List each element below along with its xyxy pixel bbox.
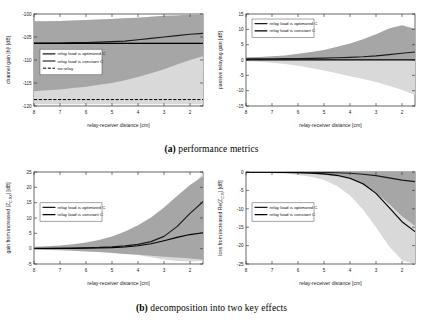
x-tick-label: 6 xyxy=(85,268,88,273)
y-tick-label: 10 xyxy=(238,27,244,32)
x-tick-label: 3 xyxy=(163,268,166,273)
y-tick-label: 20 xyxy=(26,185,32,190)
legend-label: relay load is optimized C xyxy=(270,205,318,210)
plot-passive-relaying-gain: 8765432151050-5-10-15relay-receiver dist… xyxy=(212,0,423,140)
y-tick-label: -20 xyxy=(237,243,244,248)
legend: relay load is optimized Crelay load is c… xyxy=(40,49,105,75)
caption-a-text: performance metrics xyxy=(178,144,258,154)
y-tick-label: -120 xyxy=(22,104,32,109)
x-tick-label: 8 xyxy=(245,110,248,115)
x-axis-label: relay-receiver distance [cm] xyxy=(87,122,150,128)
x-tick-label: 7 xyxy=(271,268,274,273)
legend-label: relay load is constant C xyxy=(270,28,316,33)
y-tick-label: 5 xyxy=(29,231,32,236)
y-tick-label: 15 xyxy=(238,12,244,17)
y-tick-label: 5 xyxy=(241,42,244,47)
legend: relay load is optimized Crelay load is c… xyxy=(252,203,317,221)
legend: relay load is optimized Crelay load is c… xyxy=(252,19,317,37)
legend-label: relay load is constant C xyxy=(58,59,104,64)
x-tick-label: 3 xyxy=(375,268,378,273)
chart-svg-channel-gain: 8765432-100-105-110-115-120relay-receive… xyxy=(0,0,211,140)
x-tick-label: 4 xyxy=(137,268,140,273)
caption-a: (a) performance metrics xyxy=(0,140,423,158)
y-tick-label: 15 xyxy=(26,200,32,205)
y-axis-label: channel gain |h|² [dB] xyxy=(5,35,11,84)
legend-label: relay load is optimized C xyxy=(270,21,318,26)
y-tick-label: 0 xyxy=(241,170,244,175)
chart-svg-gain-from-increased-z: 87654322520151050-5relay-receiver distan… xyxy=(0,158,211,298)
y-tick-label: 10 xyxy=(26,216,32,221)
y-tick-label: -5 xyxy=(239,73,244,78)
x-tick-label: 7 xyxy=(59,110,62,115)
plot-loss-from-increased-re-z: 87654320-5-10-15-20-25relay-receiver dis… xyxy=(212,158,423,298)
y-tick-label: 25 xyxy=(26,170,32,175)
x-tick-label: 5 xyxy=(323,110,326,115)
caption-b: (b) decomposition into two key effects xyxy=(0,298,423,318)
x-tick-label: 8 xyxy=(33,110,36,115)
x-tick-label: 3 xyxy=(163,110,166,115)
y-tick-label: 0 xyxy=(241,58,244,63)
plot-gain-from-increased-z: 87654322520151050-5relay-receiver distan… xyxy=(0,158,211,298)
y-tick-label: -15 xyxy=(237,225,244,230)
x-tick-label: 5 xyxy=(111,110,114,115)
legend: relay load is optimized Crelay load is c… xyxy=(40,203,105,221)
y-tick-label: -25 xyxy=(237,262,244,267)
x-tick-label: 8 xyxy=(33,268,36,273)
x-tick-label: 5 xyxy=(111,268,114,273)
y-tick-label: -110 xyxy=(23,58,32,63)
x-tick-label: 4 xyxy=(349,268,352,273)
y-tick-label: -5 xyxy=(27,262,32,267)
x-tick-label: 6 xyxy=(297,268,300,273)
x-tick-label: 6 xyxy=(85,110,88,115)
x-tick-label: 2 xyxy=(401,268,404,273)
x-tick-label: 2 xyxy=(189,110,192,115)
chart-svg-passive-relaying-gain: 8765432151050-5-10-15relay-receiver dist… xyxy=(212,0,423,140)
y-axis-label: loss from increased Re(ZC-R) [dB] xyxy=(217,180,225,256)
x-tick-label: 4 xyxy=(137,110,140,115)
panel-row-b: 87654322520151050-5relay-receiver distan… xyxy=(0,158,423,298)
y-tick-label: 0 xyxy=(29,246,32,251)
legend-label: relay load is constant C xyxy=(58,212,104,217)
x-tick-label: 8 xyxy=(245,268,248,273)
y-tick-label: -105 xyxy=(22,35,32,40)
legend-label: relay load is constant C xyxy=(270,212,316,217)
y-tick-label: -10 xyxy=(237,88,244,93)
figure-container: 8765432-100-105-110-115-120relay-receive… xyxy=(0,0,423,320)
legend-label: relay load is optimized C xyxy=(58,205,106,210)
x-tick-label: 5 xyxy=(323,268,326,273)
x-axis-label: relay-receiver distance [cm] xyxy=(87,280,150,286)
x-tick-label: 6 xyxy=(297,110,300,115)
y-tick-label: -5 xyxy=(239,188,244,193)
x-tick-label: 7 xyxy=(59,268,62,273)
x-tick-label: 2 xyxy=(189,268,192,273)
y-axis-label: passive relaying gain [dB] xyxy=(217,30,223,89)
chart-svg-loss-from-increased-re-z: 87654320-5-10-15-20-25relay-receiver dis… xyxy=(212,158,423,298)
x-axis-label: relay-receiver distance [cm] xyxy=(299,280,362,286)
caption-a-tag: (a) xyxy=(164,144,175,154)
x-tick-label: 7 xyxy=(271,110,274,115)
y-tick-label: -115 xyxy=(23,81,32,86)
legend-label: relay load is optimized C xyxy=(58,51,106,56)
caption-b-tag: (b) xyxy=(136,303,148,313)
y-tick-label: -15 xyxy=(237,104,244,109)
plot-channel-gain: 8765432-100-105-110-115-120relay-receive… xyxy=(0,0,211,140)
x-axis-label: relay-receiver distance [cm] xyxy=(299,122,362,128)
legend-label: no relay xyxy=(58,66,74,71)
caption-b-text: decomposition into two key effects xyxy=(150,303,287,313)
x-tick-label: 4 xyxy=(349,110,352,115)
x-tick-label: 3 xyxy=(375,110,378,115)
x-tick-label: 2 xyxy=(401,110,404,115)
y-tick-label: -100 xyxy=(22,12,32,17)
y-axis-label: gain from increased |ZC-RX| [dB] xyxy=(5,182,13,254)
y-tick-label: -10 xyxy=(237,207,244,212)
panel-row-a: 8765432-100-105-110-115-120relay-receive… xyxy=(0,0,423,140)
